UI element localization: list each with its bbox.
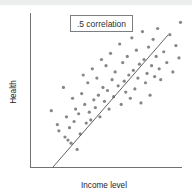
data-point <box>107 108 110 111</box>
data-point <box>57 129 60 132</box>
data-point <box>88 111 91 114</box>
data-point <box>77 112 80 115</box>
scatter-plot: .5 correlation Income level Health <box>0 0 192 194</box>
data-point <box>130 36 133 39</box>
data-point <box>118 42 121 45</box>
data-point <box>66 139 69 142</box>
data-point <box>97 94 100 97</box>
data-point <box>135 49 138 52</box>
data-point <box>103 100 106 103</box>
data-point <box>121 61 124 64</box>
data-point <box>168 33 171 36</box>
data-point <box>95 77 98 80</box>
data-point <box>148 94 151 97</box>
data-point <box>86 81 89 84</box>
data-point <box>50 109 53 112</box>
data-point <box>114 70 117 73</box>
data-point <box>104 64 107 67</box>
data-point <box>100 58 103 61</box>
data-point <box>145 72 148 75</box>
data-point <box>76 148 79 151</box>
data-point <box>132 69 135 72</box>
data-point <box>165 61 168 64</box>
data-point <box>63 135 66 138</box>
data-point <box>139 101 142 104</box>
data-point <box>159 78 162 81</box>
data-point <box>110 78 113 81</box>
data-point <box>162 50 165 53</box>
data-point <box>71 97 74 100</box>
data-point <box>101 86 104 89</box>
data-point <box>156 27 159 30</box>
data-point <box>117 84 120 87</box>
data-point <box>92 98 95 101</box>
data-point <box>109 52 112 55</box>
x-axis-label: Income level <box>81 181 127 190</box>
data-point <box>174 44 177 47</box>
data-point <box>94 106 97 109</box>
scatterplot-figure: .5 correlation Income level Health <box>0 0 192 194</box>
data-points-group <box>50 21 182 151</box>
data-point <box>72 120 75 123</box>
data-point <box>155 55 158 58</box>
data-point <box>120 103 123 106</box>
data-point <box>152 38 155 41</box>
data-point <box>141 30 144 33</box>
data-point <box>106 89 109 92</box>
data-point <box>68 126 71 129</box>
data-point <box>153 75 156 78</box>
data-point <box>177 56 180 59</box>
data-point <box>133 87 136 90</box>
callout-label: .5 correlation <box>77 19 126 29</box>
data-point <box>56 123 59 126</box>
data-point <box>62 86 65 89</box>
data-point <box>89 118 92 121</box>
data-point <box>150 64 153 67</box>
data-point <box>80 92 83 95</box>
data-point <box>91 67 94 70</box>
data-point <box>98 115 101 118</box>
callout-annotation: .5 correlation <box>71 16 133 32</box>
data-point <box>124 90 127 93</box>
data-point <box>144 81 147 84</box>
data-point <box>85 121 88 124</box>
data-point <box>179 21 182 24</box>
data-point <box>129 97 132 100</box>
data-point <box>65 115 68 118</box>
data-point <box>82 73 85 76</box>
data-point <box>69 142 72 145</box>
data-point <box>138 63 141 66</box>
data-point <box>136 77 139 80</box>
data-point <box>127 73 130 76</box>
data-point <box>123 80 126 83</box>
data-point <box>126 55 129 58</box>
data-point <box>158 67 161 70</box>
y-axis-label: Health <box>9 80 18 104</box>
data-point <box>147 46 150 49</box>
data-point <box>74 108 77 111</box>
data-point <box>83 103 86 106</box>
data-point <box>171 70 174 73</box>
